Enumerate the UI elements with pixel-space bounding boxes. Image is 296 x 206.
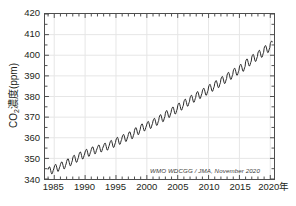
y-tick-label: 420 [2,8,40,18]
series-line-0 [48,41,272,174]
co2-series-line [45,14,274,179]
x-tick-label: 2010 [198,182,219,192]
x-tick-label: 1990 [74,182,95,192]
plot-area [44,13,275,180]
y-axis-title-rest: 濃度(ppm) [8,63,19,109]
x-tick-label: 2000 [136,182,157,192]
y-axis-title-subscript: 2 [13,109,20,113]
x-tick-label: 1985 [43,182,64,192]
co2-concentration-chart: 340350360370380390400410420 CO2濃度(ppm) 1… [0,0,296,206]
y-axis-title-main: CO [8,113,19,128]
y-axis-title: CO2濃度(ppm) [5,21,20,171]
x-tick-label: 2020年 [258,182,289,192]
x-axis-tick-labels: 19851990199520002005201020152020年 [0,182,296,198]
source-annotation: WMO WDCGG / JMA, November 2020 [150,167,260,174]
x-tick-label: 2015 [230,182,251,192]
x-tick-label: 1995 [105,182,126,192]
x-tick-label: 2005 [167,182,188,192]
